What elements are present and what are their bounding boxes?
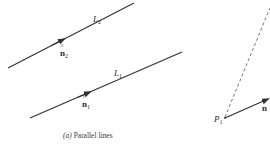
caption-prefix: (a) <box>63 131 72 140</box>
label-l2: L2 <box>93 15 101 25</box>
hat-symbol: ^ <box>263 98 266 105</box>
label-l1-subscript: 1 <box>119 73 122 79</box>
point-p1-icon <box>224 117 226 119</box>
n1-vector: ^n <box>82 99 87 109</box>
label-n1: ^n1 <box>82 100 90 110</box>
line-l1 <box>30 52 182 118</box>
n1-subscript: 1 <box>87 104 90 110</box>
label-l1: L1 <box>114 69 122 79</box>
hat-symbol: ^ <box>61 43 64 50</box>
line-l2 <box>8 3 134 68</box>
label-p1: P1 <box>214 115 223 125</box>
label-l2-subscript: 2 <box>98 19 101 25</box>
n2-subscript: 2 <box>65 53 68 59</box>
label-n-hat: ^n <box>262 104 267 113</box>
n2-vector: ^n <box>60 48 65 58</box>
figure-caption: (a) Parallel lines <box>63 131 113 140</box>
n-hat-vector: ^n <box>262 103 267 113</box>
hat-symbol: ^ <box>83 94 86 101</box>
caption-text: Parallel lines <box>72 131 113 140</box>
parallel-lines-diagram <box>0 0 270 148</box>
p1-subscript: 1 <box>220 119 223 125</box>
label-n2: ^n2 <box>60 49 68 59</box>
